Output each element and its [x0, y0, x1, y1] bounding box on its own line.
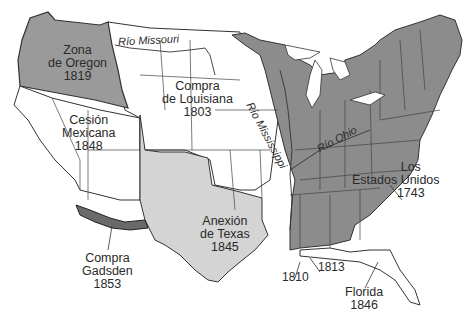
label-1813: 1813 [318, 260, 345, 274]
united-states-year: 1743 [352, 187, 440, 200]
label-florida: Florida 1846 [345, 286, 383, 312]
label-gadsden: Compra Gadsden 1853 [82, 252, 133, 291]
texas-year: 1845 [200, 241, 250, 254]
label-mexican-cession: Cesión Mexicana 1848 [62, 114, 116, 153]
gadsden-year: 1853 [82, 278, 133, 291]
label-oregon: Zona de Oregon 1819 [48, 44, 107, 83]
florida-year: 1846 [345, 299, 383, 312]
label-louisiana: Compra de Louisiana 1803 [162, 80, 233, 119]
louisiana-year: 1803 [162, 106, 233, 119]
us-territorial-map: Zona de Oregon 1819 Compra de Louisiana … [0, 0, 474, 321]
label-texas: Anexión de Texas 1845 [200, 215, 250, 254]
label-united-states: Los Estados Unidos 1743 [352, 161, 440, 200]
united-states-name2: Estados Unidos [352, 174, 440, 187]
oregon-year: 1819 [48, 70, 107, 83]
label-1810: 1810 [282, 270, 309, 284]
mexican-cession-year: 1848 [62, 140, 116, 153]
